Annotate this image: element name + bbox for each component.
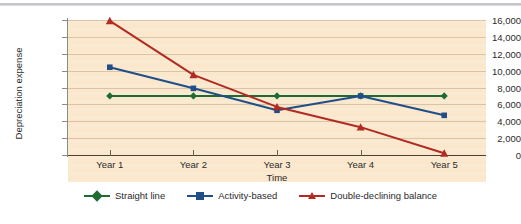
legend-item-double-declining-balance[interactable]: Double-declining balance xyxy=(299,190,437,201)
data-point-marker xyxy=(106,17,114,24)
legend-point-swatch xyxy=(308,192,316,199)
legend-point-swatch xyxy=(196,192,204,200)
depreciation-expense-chart: 02,0004,0006,0008,00010,00012,00014,0001… xyxy=(0,0,521,224)
series-straight-line xyxy=(106,92,448,99)
legend-item-straight-line[interactable]: Straight line xyxy=(84,190,165,201)
legend-marker-icon xyxy=(84,190,110,201)
data-point-marker xyxy=(358,93,364,99)
series-double-declining-balance xyxy=(106,17,448,157)
data-point-marker xyxy=(441,113,447,119)
legend-item-activity-based[interactable]: Activity-based xyxy=(187,190,277,201)
data-point-marker xyxy=(190,92,197,99)
data-point-marker xyxy=(107,64,113,70)
legend-point-swatch xyxy=(91,190,102,201)
legend-label: Activity-based xyxy=(218,190,277,201)
data-point-marker xyxy=(273,92,280,99)
series-line xyxy=(110,21,444,153)
chart-legend: Straight lineActivity-basedDouble-declin… xyxy=(0,190,521,201)
legend-label: Straight line xyxy=(115,190,165,201)
legend-label: Double-declining balance xyxy=(330,190,437,201)
legend-marker-icon xyxy=(299,190,325,201)
legend-marker-icon xyxy=(187,190,213,201)
data-point-marker xyxy=(441,92,448,99)
data-point-marker xyxy=(106,92,113,99)
data-point-marker xyxy=(191,86,197,92)
